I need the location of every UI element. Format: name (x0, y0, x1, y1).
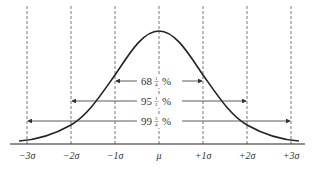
tick-mu: μ (155, 150, 161, 161)
label-95: 95 (141, 95, 153, 107)
svg-text:%: % (162, 115, 171, 127)
label-68: 68 (141, 75, 153, 87)
label-99: 99 (141, 115, 153, 127)
svg-text:%: % (162, 95, 171, 107)
axis-tick-labels: −3σ −2σ −1σ μ +1σ +2σ +3σ (19, 150, 301, 161)
tick-minus-2sigma: −2σ (63, 150, 81, 161)
tick-plus-2sigma: +2σ (239, 150, 257, 161)
tick-plus-1sigma: +1σ (195, 150, 213, 161)
tick-minus-3sigma: −3σ (19, 150, 37, 161)
tick-minus-1sigma: −1σ (107, 150, 125, 161)
tick-plus-3sigma: +3σ (283, 150, 301, 161)
normal-distribution-diagram: 68 1 4 % 95 1 2 % 99 3 4 % −3σ −2σ −1σ μ… (0, 0, 318, 170)
svg-text:%: % (162, 75, 171, 87)
interval-labels: 68 1 4 % 95 1 2 % 99 3 4 % (138, 74, 181, 128)
